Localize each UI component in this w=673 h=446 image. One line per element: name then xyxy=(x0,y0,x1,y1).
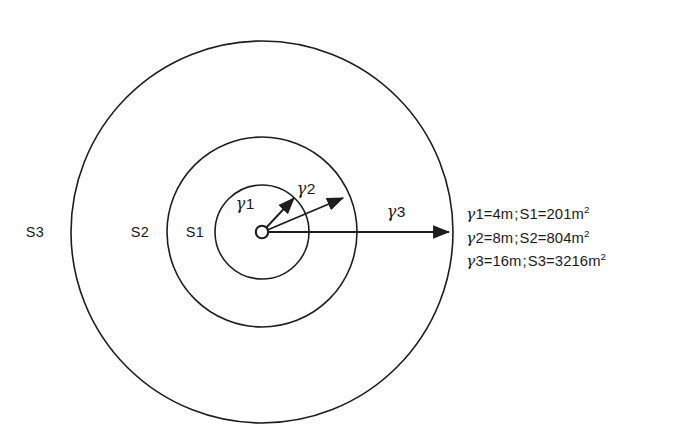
gamma-index: 2 xyxy=(307,180,316,197)
diagram-canvas: S3 S2 S1 γ1 γ2 γ3 γ1=4m;S1=201m2 γ2=8m;S… xyxy=(0,0,673,446)
gamma-symbol: γ xyxy=(466,229,475,247)
legend-radius-value: =4m xyxy=(484,206,514,222)
legend-area-name: S1 xyxy=(519,206,537,222)
legend-row: γ2=8m;S2=804m2 xyxy=(466,227,606,251)
legend-radius-index: 2 xyxy=(475,230,483,246)
legend-radius-value: =16m xyxy=(484,253,522,269)
gamma-index: 1 xyxy=(246,195,255,212)
legend-area-value: =3216m xyxy=(546,253,600,269)
radius-arrow-gamma2 xyxy=(265,198,343,231)
center-point xyxy=(256,226,268,238)
legend-radius-index: 1 xyxy=(475,206,483,222)
radius-label-gamma3: γ3 xyxy=(387,204,406,220)
legend-radius-value: =8m xyxy=(484,230,514,246)
gamma-symbol: γ xyxy=(466,205,475,223)
region-label-s3: S3 xyxy=(26,225,45,240)
legend-radius-index: 3 xyxy=(475,253,483,269)
radius-label-gamma1: γ1 xyxy=(236,196,255,212)
gamma-symbol: γ xyxy=(387,202,397,221)
legend-row: γ3=16m;S3=3216m2 xyxy=(466,250,606,274)
legend-row: γ1=4m;S1=201m2 xyxy=(466,203,606,227)
legend-area-value: =201m xyxy=(538,206,584,222)
region-label-s1: S1 xyxy=(186,225,205,240)
gamma-index: 3 xyxy=(397,203,406,220)
legend-area-name: S2 xyxy=(519,230,537,246)
gamma-symbol: γ xyxy=(236,194,246,213)
legend-area-name: S3 xyxy=(528,253,546,269)
gamma-symbol: γ xyxy=(466,252,475,270)
legend: γ1=4m;S1=201m2 γ2=8m;S2=804m2 γ3=16m;S3=… xyxy=(466,203,606,274)
legend-area-exponent: 2 xyxy=(601,251,607,262)
legend-area-exponent: 2 xyxy=(584,204,590,215)
radius-label-gamma2: γ2 xyxy=(297,181,316,197)
region-label-s2: S2 xyxy=(131,225,150,240)
gamma-symbol: γ xyxy=(297,179,307,198)
legend-area-exponent: 2 xyxy=(584,228,590,239)
legend-area-value: =804m xyxy=(538,230,584,246)
